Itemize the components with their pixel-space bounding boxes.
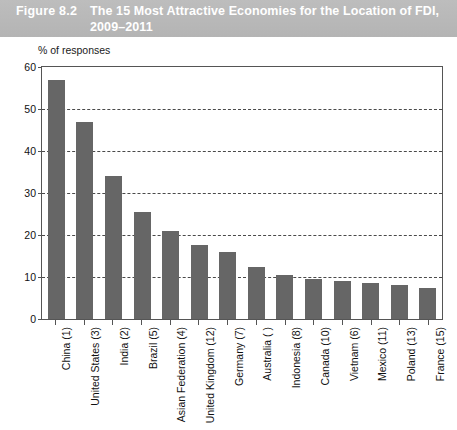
x-tick-slot — [156, 320, 185, 325]
bar-slot — [128, 67, 157, 319]
bar-slot — [185, 67, 214, 319]
x-axis-tick-mark — [371, 320, 372, 325]
x-axis-tick-mark — [399, 320, 400, 325]
x-label-slot: Poland (13) — [386, 327, 415, 427]
y-axis-tick-label: 0 — [30, 313, 36, 325]
x-label-slot: Canada (10) — [299, 327, 328, 427]
x-axis-category-labels: China (1)United States (3)India (2)Brazi… — [41, 327, 443, 427]
bar — [219, 252, 236, 319]
figure-header: Figure 8.2 The 15 Most Attractive Econom… — [0, 0, 457, 37]
bar-slot — [385, 67, 414, 319]
x-label-slot: India (2) — [98, 327, 127, 427]
x-label-slot: Mexico (11) — [357, 327, 386, 427]
x-axis-tick-mark — [227, 320, 228, 325]
bar — [76, 122, 93, 319]
x-tick-slot — [98, 320, 127, 325]
x-axis-tick-mark — [141, 320, 142, 325]
bar-slot — [414, 67, 443, 319]
x-tick-slot — [299, 320, 328, 325]
bar — [162, 231, 179, 319]
x-tick-slot — [386, 320, 415, 325]
x-axis-tick-mark — [256, 320, 257, 325]
bar-slot — [156, 67, 185, 319]
x-tick-slot — [185, 320, 214, 325]
x-axis-tick-mark — [285, 320, 286, 325]
bar — [105, 176, 122, 319]
x-label-slot: United Kingdom (12) — [185, 327, 214, 427]
figure-number: Figure 8.2 — [16, 3, 90, 18]
x-axis-tick-mark — [170, 320, 171, 325]
x-label-slot: Vietnam (6) — [328, 327, 357, 427]
bar-slot — [213, 67, 242, 319]
bar-slot — [299, 67, 328, 319]
bar — [305, 279, 322, 319]
bar — [419, 288, 436, 319]
x-label-slot: Brazil (5) — [127, 327, 156, 427]
y-axis-tick-label: 20 — [24, 229, 36, 241]
y-axis-tick-label: 60 — [24, 61, 36, 73]
x-label-slot: Australia ( ) — [242, 327, 271, 427]
bar — [191, 245, 208, 319]
bar — [134, 212, 151, 319]
bar — [391, 285, 408, 319]
bar — [48, 80, 65, 319]
x-tick-slot — [357, 320, 386, 325]
bar-slot — [71, 67, 100, 319]
x-axis-tick-mark — [112, 320, 113, 325]
y-axis-tick-label: 50 — [24, 103, 36, 115]
bar-slot — [271, 67, 300, 319]
x-axis-tick-mark — [313, 320, 314, 325]
x-axis-tick-mark — [428, 320, 429, 325]
x-tick-slot — [70, 320, 99, 325]
x-axis-category-label: France (15) — [434, 327, 446, 381]
y-axis-tick-label: 40 — [24, 145, 36, 157]
bar — [334, 281, 351, 319]
x-tick-slot — [271, 320, 300, 325]
x-tick-slot — [127, 320, 156, 325]
bar — [362, 283, 379, 319]
x-axis-tick-mark — [84, 320, 85, 325]
x-tick-slot — [328, 320, 357, 325]
bar-slot — [242, 67, 271, 319]
y-axis-tick-label: 10 — [24, 271, 36, 283]
x-axis-tick-mark — [198, 320, 199, 325]
x-label-slot: Germany (7) — [213, 327, 242, 427]
x-tick-slot — [414, 320, 443, 325]
x-tick-slot — [242, 320, 271, 325]
x-label-slot: France (15) — [414, 327, 443, 427]
bar-slot — [42, 67, 71, 319]
y-axis-tick-label: 30 — [24, 187, 36, 199]
figure-header-row: Figure 8.2 The 15 Most Attractive Econom… — [16, 3, 447, 35]
bar-slot — [356, 67, 385, 319]
bar-slot — [328, 67, 357, 319]
x-axis-tick-marks — [41, 320, 443, 325]
x-label-slot: Indonesia (8) — [271, 327, 300, 427]
figure-title: The 15 Most Attractive Economies for the… — [90, 3, 447, 35]
x-tick-slot — [213, 320, 242, 325]
x-label-slot: United States (3) — [70, 327, 99, 427]
y-axis-unit-caption: % of responses — [38, 44, 110, 56]
x-axis-tick-mark — [55, 320, 56, 325]
bar — [276, 275, 293, 319]
x-tick-slot — [41, 320, 70, 325]
bar-slot — [99, 67, 128, 319]
bar — [248, 267, 265, 319]
chart-plot-area: 0102030405060 — [41, 66, 443, 320]
bars-group — [42, 67, 442, 319]
x-axis-tick-mark — [342, 320, 343, 325]
x-label-slot: China (1) — [41, 327, 70, 427]
x-label-slot: Asian Federation (4) — [156, 327, 185, 427]
